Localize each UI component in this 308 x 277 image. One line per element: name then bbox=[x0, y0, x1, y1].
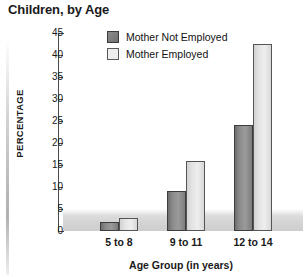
y-tick-label-20: 20 bbox=[29, 138, 63, 148]
dark-swatch-icon bbox=[107, 31, 119, 43]
y-tick-label-15: 15 bbox=[29, 160, 63, 170]
y-tick-label-10: 10 bbox=[29, 182, 63, 192]
bar-employed-9-to-11 bbox=[186, 161, 205, 231]
legend: Mother Not Employed Mother Employed bbox=[107, 29, 228, 63]
y-tick-label-45: 45 bbox=[29, 28, 63, 38]
y-tick-label-30: 30 bbox=[29, 94, 63, 104]
y-tick-label-10-wrap: 10 bbox=[16, 182, 63, 192]
y-tick-label-40: 40 bbox=[29, 50, 63, 60]
bar-employed-5-to-8 bbox=[119, 218, 138, 231]
x-axis-title: Age Group (in years) bbox=[58, 259, 304, 271]
bar-employed-12-to-14 bbox=[253, 44, 272, 231]
light-swatch-icon bbox=[107, 48, 119, 60]
bar-not-employed-9-to-11 bbox=[167, 191, 186, 231]
y-axis-title: PERCENTAGE bbox=[14, 69, 25, 179]
y-tick-label-0: 0 bbox=[29, 226, 63, 236]
bar-chart: 45 40 35 30 25 20 15 10 5 0 PERCENTAGE 5… bbox=[0, 0, 308, 277]
bar-not-employed-5-to-8 bbox=[100, 222, 119, 231]
y-tick-label-0-wrap: 0 bbox=[16, 226, 63, 236]
legend-label-mother-not-employed: Mother Not Employed bbox=[126, 31, 228, 43]
legend-item-mother-employed: Mother Employed bbox=[107, 46, 228, 62]
legend-item-mother-not-employed: Mother Not Employed bbox=[107, 29, 228, 45]
y-tick-label-40-wrap: 40 bbox=[16, 50, 63, 60]
y-tick-label-5: 5 bbox=[29, 204, 63, 214]
y-tick-label-5-wrap: 5 bbox=[16, 204, 63, 214]
y-tick-label-35: 35 bbox=[29, 72, 63, 82]
y-tick-label-45-wrap: 45 bbox=[16, 28, 63, 38]
x-tick-label-12-to-14: 12 to 14 bbox=[213, 236, 293, 248]
bar-not-employed-12-to-14 bbox=[234, 125, 253, 231]
y-tick-label-25: 25 bbox=[29, 116, 63, 126]
legend-label-mother-employed: Mother Employed bbox=[126, 48, 208, 60]
